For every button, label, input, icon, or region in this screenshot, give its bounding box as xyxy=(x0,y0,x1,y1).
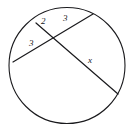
segment-label-x: x xyxy=(88,56,92,65)
segment-label-3-right: 3 xyxy=(63,14,68,23)
segment-label-2: 2 xyxy=(41,17,46,26)
chord-upper-left-to-lower-right xyxy=(36,23,118,94)
geometry-figure: 2 3 3 x xyxy=(0,0,134,134)
chord-lower-left-to-upper-right xyxy=(13,14,93,62)
segment-label-3-left: 3 xyxy=(29,39,34,48)
circle-outline xyxy=(9,8,125,124)
